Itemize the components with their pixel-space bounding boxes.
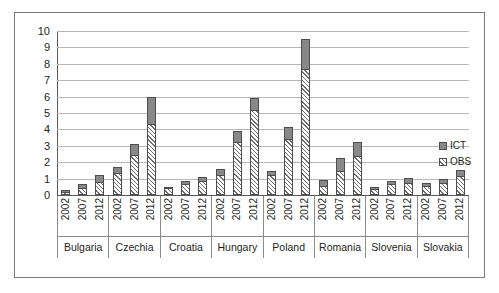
bar-group-croatia (160, 31, 212, 195)
year-label: 2012 (198, 198, 208, 220)
bar-segment-obs (147, 124, 156, 195)
stacked-bar[interactable] (336, 158, 345, 195)
stacked-bar[interactable] (164, 187, 173, 195)
bar-slot (435, 31, 452, 195)
bar-segment-obs (387, 184, 396, 195)
bar-segment-ict (353, 142, 362, 157)
chart-legend: ICTOBS (439, 141, 471, 167)
year-labels-row: 200220072012 (212, 196, 262, 237)
bar-segment-ict (284, 127, 293, 139)
stacked-bar[interactable] (319, 180, 328, 195)
year-label: 2007 (335, 198, 345, 220)
year-label-cell: 2012 (194, 196, 211, 220)
year-label: 2012 (95, 198, 105, 220)
bar-segment-obs (404, 183, 413, 195)
year-label: 2002 (318, 198, 328, 220)
category-group-slovakia: 200220072012Slovakia (418, 196, 469, 258)
bar-segment-obs (353, 156, 362, 195)
year-label-cell: 2007 (178, 196, 195, 220)
stacked-bar[interactable] (301, 39, 310, 195)
stacked-bar[interactable] (113, 167, 122, 195)
bar-slot (366, 31, 383, 195)
stacked-bar[interactable] (181, 181, 190, 195)
year-label: 2002 (267, 198, 277, 220)
category-group-bulgaria: 200220072012Bulgaria (57, 196, 109, 258)
bar-slot (57, 31, 74, 195)
bar-slot (212, 31, 229, 195)
bar-slot (263, 31, 280, 195)
stacked-bar[interactable] (250, 98, 259, 195)
year-label: 2002 (421, 198, 431, 220)
stacked-bar[interactable] (387, 181, 396, 195)
stacked-bar[interactable] (95, 175, 104, 195)
bar-segment-obs (113, 173, 122, 195)
bar-slot (315, 31, 332, 195)
bar-slot (143, 31, 160, 195)
year-label-cell: 2002 (161, 196, 178, 220)
year-label: 2002 (113, 198, 123, 220)
value-axis-tick-label: 7 (44, 75, 50, 86)
legend-swatch-obs-icon (439, 158, 447, 166)
year-label-cell: 2007 (383, 196, 400, 220)
bar-segment-obs (78, 188, 87, 195)
year-label: 2012 (300, 198, 310, 220)
bar-segment-obs (198, 181, 207, 195)
stacked-bar[interactable] (439, 179, 448, 195)
year-label: 2007 (130, 198, 140, 220)
stacked-bar[interactable] (130, 144, 139, 195)
bar-slot (349, 31, 366, 195)
value-axis-tick-label: 3 (44, 140, 50, 151)
stacked-bar[interactable] (233, 131, 242, 195)
bar-slot (126, 31, 143, 195)
value-axis-tick-label: 5 (44, 108, 50, 119)
bar-segment-obs (61, 192, 70, 195)
stacked-bar[interactable] (198, 177, 207, 195)
stacked-bar[interactable] (61, 190, 70, 195)
bar-slot (452, 31, 469, 195)
bar-segment-obs (439, 183, 448, 195)
stacked-bar[interactable] (422, 183, 431, 195)
stacked-bar[interactable] (78, 184, 87, 195)
year-label: 2002 (61, 198, 71, 220)
stacked-bar[interactable] (147, 97, 156, 195)
bar-slot (109, 31, 126, 195)
category-group-slovenia: 200220072012Slovenia (366, 196, 417, 258)
legend-item-obs[interactable]: OBS (439, 157, 471, 167)
year-label-cell: 2007 (434, 196, 451, 220)
year-labels-row: 200220072012 (264, 196, 314, 237)
stacked-bar[interactable] (216, 169, 225, 195)
year-label-cell: 2012 (143, 196, 160, 220)
year-label-cell: 2012 (400, 196, 417, 220)
stacked-bar[interactable] (353, 142, 362, 195)
value-axis-tick-label: 0 (44, 190, 50, 201)
year-label: 2007 (181, 198, 191, 220)
stacked-bar[interactable] (267, 171, 276, 195)
legend-item-ict[interactable]: ICT (439, 141, 471, 151)
year-label-cell: 2012 (297, 196, 314, 220)
year-label: 2002 (164, 198, 174, 220)
stacked-bar[interactable] (370, 187, 379, 195)
stacked-bar[interactable] (404, 178, 413, 195)
year-label: 2007 (284, 198, 294, 220)
value-axis-tick-label: 10 (38, 26, 50, 37)
year-label-cell: 2007 (75, 196, 92, 220)
stacked-bar[interactable] (284, 127, 293, 195)
bar-segment-ict (336, 158, 345, 171)
stacked-bar[interactable] (456, 170, 465, 195)
bar-group-slovenia (366, 31, 418, 195)
year-label: 2007 (78, 198, 88, 220)
bar-slot (229, 31, 246, 195)
year-label-cell: 2012 (451, 196, 468, 220)
bar-group-bulgaria (57, 31, 109, 195)
value-axis-tick-label: 4 (44, 124, 50, 135)
year-label: 2007 (386, 198, 396, 220)
legend-swatch-ict-icon (439, 142, 447, 150)
bar-segment-obs (233, 142, 242, 195)
year-label: 2012 (146, 198, 156, 220)
bar-slot (74, 31, 91, 195)
year-label: 2012 (403, 198, 413, 220)
bar-group-hungary (212, 31, 264, 195)
bar-segment-ict (147, 97, 156, 125)
bar-group-czechia (109, 31, 161, 195)
country-label-row: Hungary (212, 237, 262, 258)
